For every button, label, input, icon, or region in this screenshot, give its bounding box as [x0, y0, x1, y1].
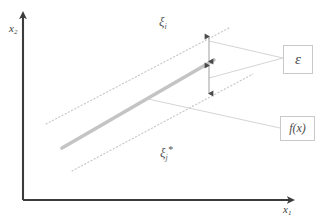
- epsilon-callout-label: ε: [295, 51, 301, 68]
- fx-callout-box: f(x): [280, 116, 315, 141]
- epsilon-leader-group: [209, 41, 283, 78]
- x-axis-label: x1: [283, 204, 291, 217]
- epsilon-callout-box: ε: [283, 45, 313, 74]
- upper-epsilon-boundary: [46, 28, 229, 124]
- y-axis-label: x2: [9, 23, 17, 36]
- fx-leader-line: [148, 99, 280, 128]
- diagram-svg: [0, 0, 317, 223]
- y-axis-label-subscript: 2: [14, 28, 18, 36]
- x-axis-label-subscript: 1: [288, 209, 292, 217]
- epsilon-leader-upper: [209, 41, 283, 58]
- xi-lower-label: ξj*: [160, 145, 173, 162]
- figure-canvas: x2 x1 ξi ξj* ε f(x): [0, 0, 317, 223]
- xi-upper-label: ξi: [159, 15, 167, 31]
- xi-upper-subscript: i: [165, 22, 167, 31]
- fx-callout-label: f(x): [289, 121, 306, 136]
- epsilon-leader-lower: [209, 58, 283, 78]
- xi-lower-superscript: *: [168, 144, 173, 155]
- axis-group: [23, 16, 290, 200]
